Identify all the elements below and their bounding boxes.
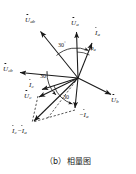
construction-line-from-u-c [32, 96, 38, 123]
label-u-c: Uc [24, 93, 31, 100]
label-u-ab: Uab [25, 17, 35, 24]
label-u-a: Ua [71, 20, 79, 27]
label-i-c-minus-i-a: Ic−Ia [12, 128, 27, 135]
label-minus-i-a: −Ia [79, 112, 88, 119]
phasor-figure: Uab Ua Ia Ucb Ic Uc Ub −Ia Ic−Ia 30° 30°… [0, 0, 136, 174]
vector-u-cb [20, 73, 78, 79]
angle-label-left-30: 30° [40, 72, 48, 79]
figure-caption: （b）相量图 [0, 155, 136, 166]
angle-label-upper-30: 30° [58, 41, 66, 48]
label-u-cb: Ucb [3, 66, 13, 73]
vector-i-c-minus-i-a [34, 78, 78, 121]
label-u-b: Ub [111, 97, 119, 104]
angle-label-phi-a: φa [90, 45, 96, 52]
label-i-c: Ic [29, 82, 34, 89]
angle-arc-upper-30 [57, 48, 89, 56]
vector-u-a [77, 32, 79, 78]
angle-label-lower-30: 30 [63, 93, 69, 100]
vector-minus-i-a [75, 78, 78, 108]
vector-u-b [78, 78, 111, 95]
label-i-a: Ia [95, 30, 100, 37]
